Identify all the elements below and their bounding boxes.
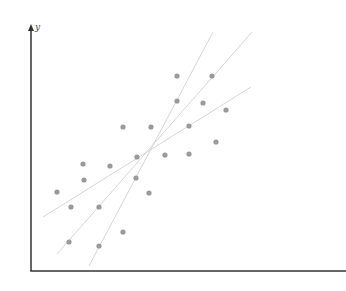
fit-lines [43,32,252,266]
data-point [148,124,153,129]
data-point [68,204,73,209]
data-point [186,151,191,156]
data-point [223,107,228,112]
data-point [146,190,151,195]
data-point [174,73,179,78]
data-point [200,100,205,105]
data-point [209,73,214,78]
data-point [213,139,218,144]
scatter-plot-with-fit-lines: y [0,0,346,291]
data-point [162,152,167,157]
y-axis-label: y [34,22,41,32]
data-point [107,163,112,168]
data-point [80,161,85,166]
middle-fit-line [57,32,252,254]
axes: y [28,22,346,271]
y-axis-arrow-icon [28,24,34,31]
data-point [81,177,86,182]
shallow-fit-line [43,87,251,217]
data-point [96,204,101,209]
data-point [186,123,191,128]
data-point [54,189,59,194]
data-point [66,239,71,244]
data-point [133,175,138,180]
data-point [174,98,179,103]
data-point [134,154,139,159]
data-point [120,229,125,234]
data-point [96,243,101,248]
data-point [120,124,125,129]
data-points [54,73,228,248]
